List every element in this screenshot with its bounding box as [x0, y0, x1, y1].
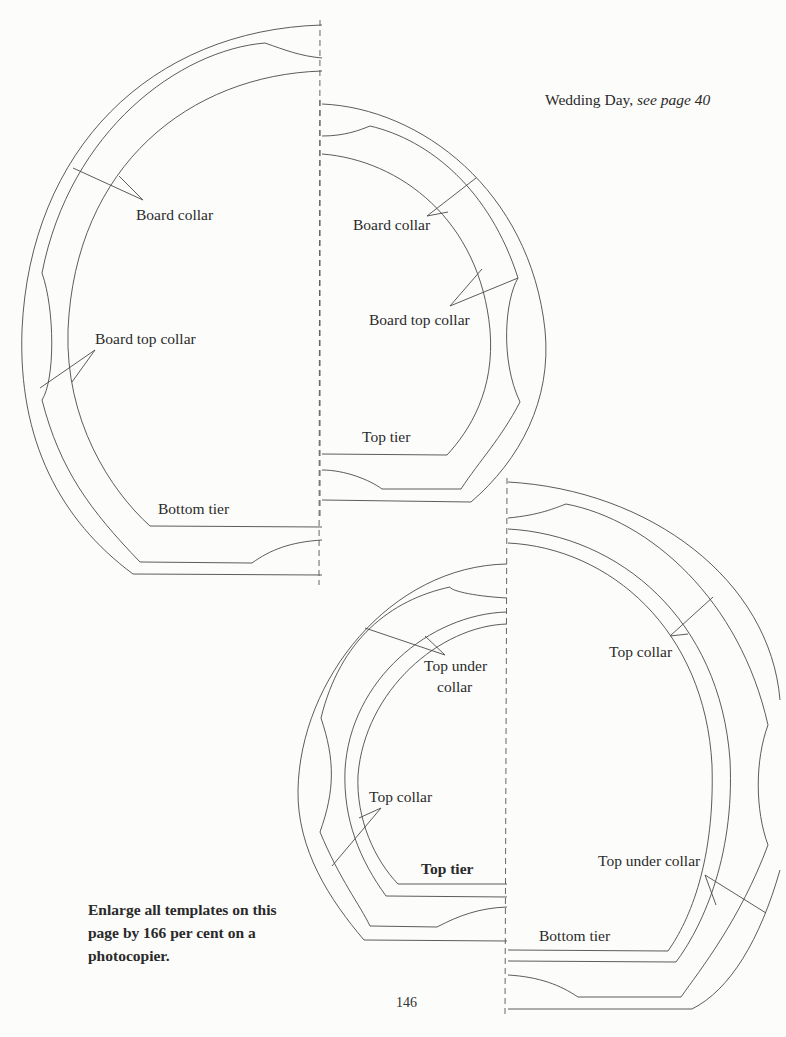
top-tier-board-template [322, 104, 546, 502]
enlarge-instruction: Enlarge all templates on this page by 16… [88, 898, 308, 967]
template-drawings [0, 0, 786, 1037]
page-title: Wedding Day, see page 40 [545, 91, 710, 109]
label-board-top-collar-right: Board top collar [369, 311, 470, 329]
label-board-top-collar-left: Board top collar [95, 330, 196, 348]
label-top-collar-left: Top collar [369, 788, 432, 806]
label-top-under-collar-left-line1: Top under [424, 657, 487, 675]
top-tier-cake-template [298, 564, 507, 941]
label-board-collar-right: Board collar [353, 216, 430, 234]
label-board-collar-left: Board collar [136, 206, 213, 224]
bottom-tier-board-template [22, 25, 322, 575]
label-top-tier-cake: Top tier [421, 860, 473, 878]
label-bottom-tier-board: Bottom tier [158, 500, 229, 518]
fold-line-cake [505, 478, 507, 1017]
template-page: Wedding Day, see page 40 Board collar Bo… [0, 0, 786, 1037]
page-number: 146 [396, 995, 417, 1011]
title-main: Wedding Day, [545, 91, 633, 108]
label-top-under-collar-right: Top under collar [598, 852, 700, 870]
label-bottom-tier-cake: Bottom tier [539, 927, 610, 945]
title-page-reference: see page 40 [637, 91, 710, 108]
label-top-collar-right: Top collar [609, 643, 672, 661]
label-top-under-collar-left-line2: collar [437, 678, 472, 696]
label-top-tier-board: Top tier [362, 428, 410, 446]
